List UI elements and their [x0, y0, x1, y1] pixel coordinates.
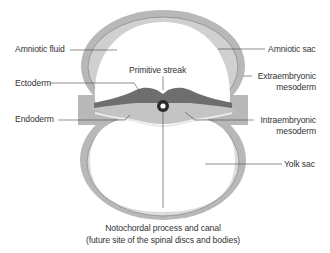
label-intraembryonic-mesoderm-2: mesoderm: [276, 126, 316, 136]
label-amniotic-sac: Amniotic sac: [268, 44, 316, 54]
label-endoderm: Endoderm: [15, 114, 54, 124]
notochordal-canal: [160, 103, 165, 108]
label-notochord-2: (future site of the spinal discs and bod…: [60, 235, 266, 245]
label-yolk-sac: Yolk sac: [284, 159, 315, 169]
label-notochord-1: Notochordal process and canal: [60, 223, 266, 233]
label-ectoderm: Ectoderm: [15, 78, 51, 88]
label-extraembryonic-mesoderm-1: Extraembryonic: [258, 71, 316, 81]
label-intraembryonic-mesoderm-1: Intraembryonic: [261, 115, 316, 125]
label-extraembryonic-mesoderm-2: mesoderm: [276, 82, 316, 92]
label-primitive-streak: Primitive streak: [129, 65, 186, 75]
label-amniotic-fluid: Amniotic fluid: [15, 44, 65, 54]
yolk-sac-cavity: [90, 120, 235, 212]
